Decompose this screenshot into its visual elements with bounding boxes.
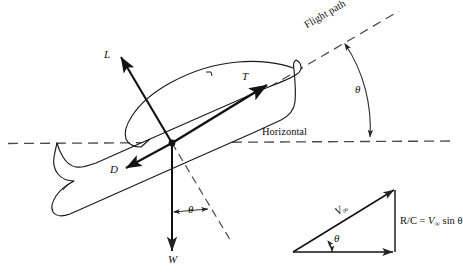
aircraft-fuselage-outline bbox=[52, 60, 301, 216]
horizontal-label: Horizontal bbox=[262, 126, 307, 137]
velocity-triangle-angle-arc bbox=[328, 241, 332, 252]
rate-of-climb-prefix: R/C = bbox=[400, 215, 428, 226]
weight-angle-theta-label: θ bbox=[188, 203, 193, 215]
thrust-label: T bbox=[242, 70, 248, 82]
velocity-triangle-theta-label: θ bbox=[334, 232, 339, 244]
weight-label: W bbox=[168, 253, 177, 265]
drag-label: D bbox=[110, 163, 118, 175]
diagram-canvas bbox=[0, 0, 463, 278]
flight-path-perpendicular-dashed-line bbox=[172, 143, 232, 243]
lift-vector-arrow bbox=[121, 57, 172, 143]
climb-force-diagram: L T D W Flight path Horizontal θ θ θ V∞ … bbox=[0, 0, 463, 278]
rate-of-climb-formula: R/C = V∞ sin θ bbox=[400, 215, 462, 228]
velocity-triangle-hypotenuse bbox=[293, 190, 394, 252]
rate-of-climb-suffix: sin θ bbox=[440, 215, 463, 226]
lift-label: L bbox=[104, 48, 110, 60]
aircraft-wing-step-detail bbox=[206, 72, 212, 76]
center-of-gravity-point bbox=[169, 140, 176, 147]
climb-angle-theta-label: θ bbox=[355, 83, 360, 95]
